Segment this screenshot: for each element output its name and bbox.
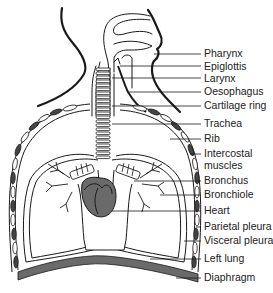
label-heart: Heart: [204, 205, 230, 216]
label-oesophagus: Oesophagus: [204, 86, 264, 97]
pharynx-passage: [114, 41, 152, 72]
label-intercostal: Intercostal: [204, 148, 252, 159]
trachea-left-wall: [92, 66, 96, 116]
label-parietal-pleura: Parietal pleura: [204, 221, 272, 232]
label-bronchus: Bronchus: [204, 175, 248, 186]
label-diaphragm: Diaphragm: [204, 272, 255, 283]
cartilage-rings: [96, 68, 110, 159]
label-epiglottis: Epiglottis: [204, 61, 247, 72]
respiratory-diagram: Pharynx Epiglottis Larynx Oesophagus Car…: [0, 0, 273, 293]
label-pharynx: Pharynx: [204, 48, 243, 59]
neck-outline-left: [38, 8, 86, 106]
label-rib: Rib: [204, 133, 220, 144]
label-bronchiole: Bronchiole: [204, 189, 254, 200]
face-profile: [148, 10, 180, 112]
epiglottis: [114, 58, 120, 64]
label-cartilage-ring: Cartilage ring: [204, 100, 266, 111]
label-trachea: Trachea: [204, 118, 242, 129]
bronchi: [69, 163, 140, 180]
label-left-lung: Left lung: [204, 253, 244, 264]
label-larynx: Larynx: [204, 73, 236, 84]
label-muscles: muscles: [204, 160, 243, 171]
label-visceral-pleura: Visceral pleura: [204, 235, 273, 246]
